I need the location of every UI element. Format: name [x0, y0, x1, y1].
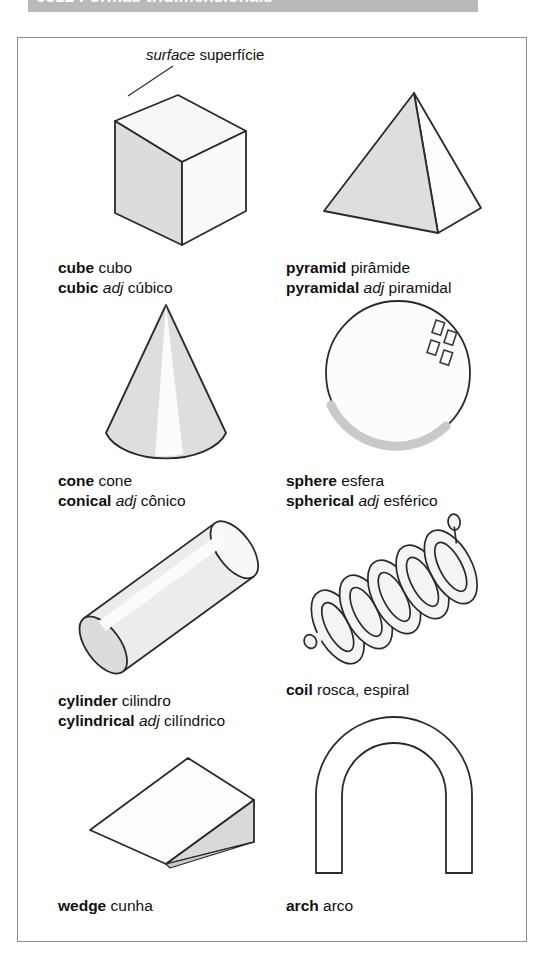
sphere-label-line-1: sphere esfera — [286, 471, 438, 491]
term-en: cylinder — [58, 692, 117, 709]
cylinder-label-line-2: cylindrical adj cilíndrico — [58, 711, 225, 731]
cube-label-line-1: cube cubo — [58, 258, 173, 278]
term-pt: cilindro — [122, 692, 171, 709]
arch-labels: arch arco — [286, 896, 353, 916]
entry-wedge: wedge cunha — [58, 738, 283, 928]
coil-labels: coil rosca, espiral — [286, 680, 409, 700]
term-en: coil — [286, 681, 313, 698]
sphere-labels: sphere esfera spherical adj esférico — [286, 471, 438, 511]
cone-labels: cone cone conical adj cônico — [58, 471, 186, 511]
term-en: pyramid — [286, 259, 346, 276]
term-en: spherical — [286, 492, 354, 509]
term-en: sphere — [286, 472, 337, 489]
term-pos: adj — [358, 492, 379, 509]
sphere-icon — [286, 293, 516, 468]
illustration-plate: surface superfície cube cubo cubic adj c… — [17, 37, 527, 942]
pyramid-label-line-1: pyramid pirâmide — [286, 258, 451, 278]
cylinder-label-line-1: cylinder cilindro — [58, 691, 225, 711]
coil-label-line-1: coil rosca, espiral — [286, 680, 409, 700]
arch-icon — [286, 703, 516, 893]
pyramid-icon — [286, 83, 516, 253]
term-en: cone — [58, 472, 94, 489]
term-pt: arco — [323, 897, 353, 914]
wedge-icon — [58, 738, 283, 893]
wedge-labels: wedge cunha — [58, 896, 153, 916]
term-pt: cone — [99, 472, 133, 489]
term-pt: rosca, espiral — [317, 681, 409, 698]
coil-icon — [286, 508, 516, 678]
term-pt: cubo — [99, 259, 133, 276]
cube-icon — [58, 83, 273, 253]
arch-label-line-1: arch arco — [286, 896, 353, 916]
entry-coil: coil rosca, espiral — [286, 508, 516, 708]
term-pt: cunha — [111, 897, 153, 914]
entry-cube: cube cubo cubic adj cúbico — [58, 83, 273, 293]
cylinder-labels: cylinder cilindro cylindrical adj cilínd… — [58, 691, 225, 731]
wedge-label-line-1: wedge cunha — [58, 896, 153, 916]
term-en: arch — [286, 897, 319, 914]
entry-pyramid: pyramid pirâmide pyramidal adj piramidal — [286, 83, 516, 293]
entry-arch: arch arco — [286, 703, 516, 928]
term-en: wedge — [58, 897, 106, 914]
term-pos: adj — [116, 492, 137, 509]
entry-cone: cone cone conical adj cônico — [58, 293, 273, 508]
cone-icon — [58, 293, 273, 468]
cube-labels: cube cubo cubic adj cúbico — [58, 258, 173, 298]
entry-cylinder: cylinder cilindro cylindrical adj cilínd… — [58, 508, 283, 728]
term-pt: pirâmide — [351, 259, 410, 276]
term-en: cylindrical — [58, 712, 135, 729]
term-pt: esfera — [341, 472, 384, 489]
term-pt: esférico — [383, 492, 437, 509]
term-en: cube — [58, 259, 94, 276]
term-pos: adj — [139, 712, 160, 729]
entry-sphere: sphere esfera spherical adj esférico — [286, 293, 516, 508]
term-pt: cônico — [141, 492, 186, 509]
term-en: conical — [58, 492, 111, 509]
page-title: 6512 Formas tridimensionais — [36, 0, 273, 7]
cylinder-icon — [58, 508, 283, 688]
term-pt: cilíndrico — [164, 712, 225, 729]
pyramid-labels: pyramid pirâmide pyramidal adj piramidal — [286, 258, 451, 298]
cone-label-line-1: cone cone — [58, 471, 186, 491]
page-header-band: 6512 Formas tridimensionais — [28, 0, 478, 12]
